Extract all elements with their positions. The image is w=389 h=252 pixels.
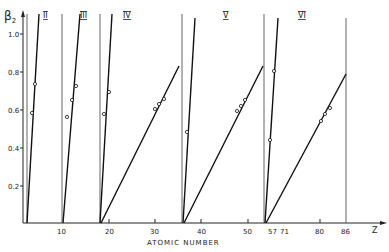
- y-tick-label: 0.2: [8, 183, 19, 191]
- period-vi-steep-line: [265, 18, 278, 223]
- x-tick-label: 71: [280, 228, 289, 236]
- period-vi-shallow-line: [266, 74, 346, 223]
- x-tick-label: 86: [341, 228, 350, 236]
- period-label-vi: VI: [298, 11, 306, 20]
- period-iii-steep-line: [63, 14, 80, 223]
- y-tick-label: 0.6: [8, 107, 20, 115]
- y-tick-label: 0.8: [8, 69, 19, 77]
- period-v-shallow-line: [184, 66, 263, 223]
- period-label-v: V: [223, 11, 229, 20]
- y-tick-label: 1.0: [8, 31, 19, 39]
- period-iv-steep-line: [100, 14, 112, 223]
- x-tick-label: 30: [150, 228, 159, 236]
- x-axis-symbol: Z: [372, 226, 378, 235]
- x-axis: [23, 219, 387, 225]
- x-tick-label: 20: [105, 228, 114, 236]
- x-tick-label: 57: [268, 228, 277, 236]
- beta2-vs-atomic-number-chart: β2 0.2 0.4 0.6 0.8 1.0 10 20 30 40 50 57…: [0, 0, 389, 252]
- x-tick-label: 40: [197, 228, 206, 236]
- period-ii-steep-line: [27, 14, 39, 223]
- y-axis-label: β2: [4, 9, 16, 25]
- data-points: [30, 69, 331, 141]
- period-boundaries: [27, 14, 346, 223]
- x-tick-label: 10: [57, 228, 66, 236]
- trend-lines: [27, 14, 346, 223]
- x-tick-label: 80: [315, 228, 324, 236]
- period-iv-shallow-line: [101, 66, 179, 223]
- y-axis: [20, 10, 25, 223]
- period-label-iii: III: [80, 11, 87, 20]
- x-tick-label: 50: [243, 228, 252, 236]
- period-label-ii: II: [43, 11, 48, 20]
- x-axis-label: ATOMIC NUMBER: [147, 239, 220, 247]
- y-tick-label: 0.4: [8, 145, 20, 153]
- period-v-steep-line: [183, 18, 195, 223]
- period-label-iv: IV: [123, 11, 131, 20]
